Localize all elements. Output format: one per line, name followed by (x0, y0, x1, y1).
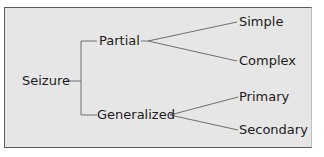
node-complex: Complex (239, 53, 296, 68)
node-generalized: Generalized (97, 107, 175, 122)
node-seizure: Seizure (22, 73, 70, 88)
node-simple: Simple (239, 14, 283, 29)
node-primary: Primary (239, 89, 289, 104)
node-partial: Partial (99, 33, 140, 48)
node-secondary: Secondary (239, 122, 308, 137)
